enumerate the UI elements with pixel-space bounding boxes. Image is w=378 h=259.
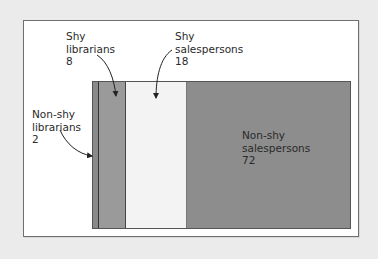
label-line: Non-shy	[32, 108, 81, 121]
label-shy-librarians: Shy librarians 8	[66, 30, 115, 68]
label-line: librarians	[66, 43, 115, 56]
label-value: 72	[242, 154, 310, 167]
segment-shy-librarians	[99, 82, 126, 228]
label-line: librarians	[32, 121, 81, 134]
label-line: Shy	[175, 30, 243, 43]
label-line: Non-shy	[242, 129, 310, 142]
label-line: Shy	[66, 30, 115, 43]
label-value: 2	[32, 133, 81, 146]
label-non-shy-librarians: Non-shy librarians 2	[32, 108, 81, 146]
label-line: salespersons	[175, 43, 243, 56]
label-value: 8	[66, 55, 115, 68]
label-value: 18	[175, 55, 243, 68]
label-non-shy-salespersons: Non-shy salespersons 72	[242, 129, 310, 167]
label-shy-salespersons: Shy salespersons 18	[175, 30, 243, 68]
segment-shy-salespersons	[126, 82, 186, 228]
label-line: salespersons	[242, 142, 310, 155]
population-bar	[92, 81, 351, 229]
